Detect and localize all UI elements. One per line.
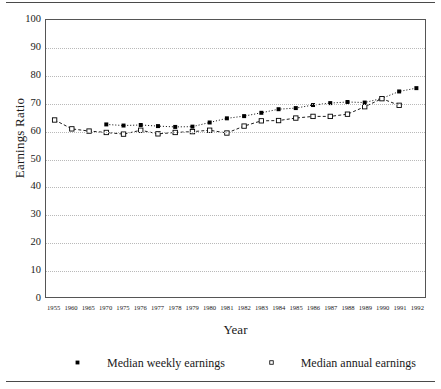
data-point-marker	[208, 121, 212, 125]
data-point-marker	[52, 118, 56, 122]
data-point-marker	[294, 116, 298, 120]
data-point-marker	[156, 124, 160, 128]
y-tick-label: 60	[1, 126, 41, 136]
y-axis-tick-labels: 1009080706050403020100	[0, 19, 41, 298]
data-point-marker	[345, 112, 349, 116]
gridline	[46, 243, 425, 244]
x-axis-title: Year	[45, 322, 426, 338]
data-point-marker	[190, 125, 194, 129]
gridline	[46, 76, 425, 77]
data-point-marker	[70, 127, 74, 131]
y-tick-label: 20	[1, 237, 41, 247]
y-tick-label: 70	[1, 98, 41, 108]
data-point-marker	[380, 96, 384, 100]
gridline	[46, 215, 425, 216]
gridline	[46, 271, 425, 272]
data-point-marker	[277, 107, 281, 111]
data-point-marker	[139, 123, 143, 127]
x-axis-tick-labels: 1955196019651970197519761977197819791980…	[45, 303, 426, 317]
data-point-marker	[276, 118, 280, 122]
y-tick-label: 0	[1, 293, 41, 303]
chart-figure: Earnings Ratio 1009080706050403020100 19…	[0, 0, 441, 389]
y-tick-label: 80	[1, 70, 41, 80]
data-point-marker	[294, 106, 298, 110]
chart-legend: Median weekly earnings Median annual ear…	[45, 352, 426, 374]
legend-label-weekly: Median weekly earnings	[107, 356, 225, 371]
y-tick-label: 50	[1, 154, 41, 164]
y-tick-label: 90	[1, 42, 41, 52]
data-point-marker	[363, 105, 367, 109]
data-point-marker	[311, 114, 315, 118]
top-divider-rule	[6, 2, 435, 3]
gridline	[46, 160, 425, 161]
data-point-marker	[259, 119, 263, 123]
legend-swatch-annual-icon	[249, 358, 295, 368]
data-point-marker	[225, 116, 229, 120]
legend-entry-weekly: Median weekly earnings	[55, 356, 225, 371]
data-point-marker	[259, 111, 263, 115]
y-tick-label: 40	[1, 181, 41, 191]
data-point-marker	[121, 132, 125, 136]
data-point-marker	[104, 122, 108, 126]
data-point-marker	[328, 114, 332, 118]
y-tick-label: 100	[1, 14, 41, 24]
data-point-marker	[397, 89, 401, 93]
data-point-marker	[414, 86, 418, 90]
legend-entry-annual: Median annual earnings	[249, 356, 416, 371]
gridline	[46, 187, 425, 188]
gridline	[46, 132, 425, 133]
data-point-marker	[122, 124, 126, 128]
y-tick-label: 30	[1, 209, 41, 219]
legend-swatch-weekly-icon	[55, 358, 101, 368]
series-canvas	[46, 20, 425, 297]
gridline	[46, 48, 425, 49]
y-tick-label: 10	[1, 265, 41, 275]
data-point-marker	[173, 125, 177, 129]
gridline	[46, 104, 425, 105]
x-tick-label: 1992	[400, 303, 434, 312]
data-point-marker	[242, 124, 246, 128]
plot-area	[45, 19, 426, 298]
data-point-marker	[242, 114, 246, 118]
legend-label-annual: Median annual earnings	[301, 356, 416, 371]
bottom-divider-rule	[6, 381, 435, 382]
